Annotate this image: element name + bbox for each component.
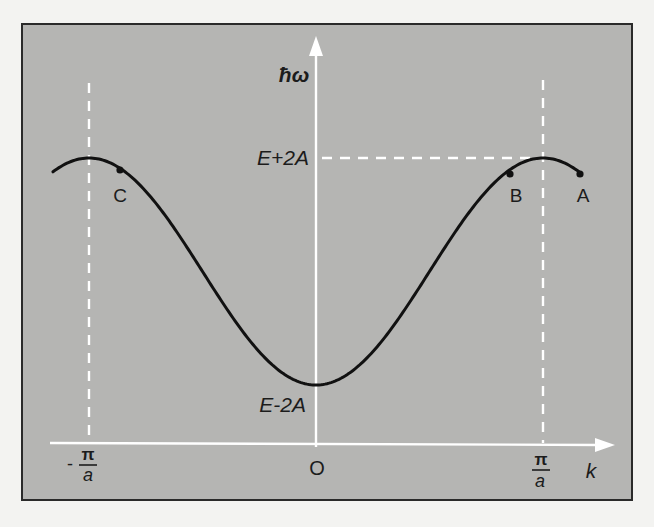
upper-level-label: E+2A	[257, 146, 309, 169]
right-boundary-denominator: a	[535, 471, 545, 491]
left-boundary-minus: -	[67, 454, 73, 474]
left-boundary-denominator: a	[83, 465, 93, 485]
x-axis-label: k	[586, 459, 598, 482]
dispersion-plot: C B A ħω k O E+2A E-2A - π a π a	[0, 0, 654, 527]
x-axis-arrowhead	[595, 438, 615, 452]
point-b-label: B	[510, 185, 523, 206]
left-boundary-numerator: π	[81, 445, 94, 464]
point-c-label: C	[113, 185, 127, 206]
right-boundary-numerator: π	[534, 450, 547, 469]
point-b-marker	[506, 170, 513, 177]
point-c-marker	[116, 166, 123, 173]
y-axis-label: ħω	[279, 63, 309, 86]
point-a-marker	[576, 170, 583, 177]
x-axis	[50, 443, 600, 445]
origin-label: O	[309, 457, 325, 479]
lower-level-label: E-2A	[259, 393, 306, 416]
point-a-label: A	[577, 185, 590, 206]
y-axis-arrowhead	[309, 36, 323, 56]
